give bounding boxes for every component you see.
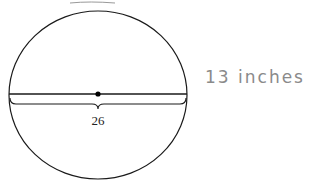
cropped-text-fragment <box>70 2 115 3</box>
circle-diagram: 26 13 inches <box>0 0 310 184</box>
diameter-brace <box>10 98 186 109</box>
diameter-label: 26 <box>92 113 106 128</box>
center-point <box>95 91 100 96</box>
handwritten-answer: 13 inches <box>205 67 305 87</box>
